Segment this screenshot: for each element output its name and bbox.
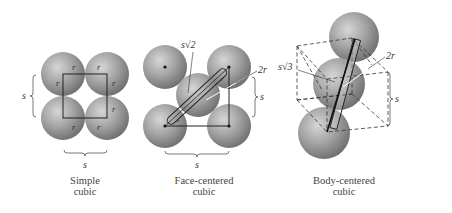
- radius-label: r: [97, 62, 101, 72]
- radius-label: r: [112, 78, 116, 88]
- side-label: s: [395, 93, 399, 104]
- radius-label: r: [112, 104, 116, 114]
- corner-dot: [163, 65, 166, 68]
- radius-label: r: [72, 62, 76, 72]
- caption-line1: Simple: [70, 175, 100, 186]
- radius-label: r: [72, 122, 76, 132]
- radius-label: r: [56, 78, 60, 88]
- center-sphere: [176, 73, 220, 117]
- caption-line1: Face-centered: [175, 175, 235, 186]
- sphere: [298, 107, 350, 159]
- body-centered-cubic-panel: s√3 2r s Body-centered cubic: [278, 12, 399, 197]
- side-bracket: [30, 75, 36, 117]
- radius-label: r: [177, 117, 180, 125]
- edge-label: s: [195, 159, 199, 170]
- diameter-label: 2r: [386, 50, 395, 61]
- edge-bracket: [165, 151, 229, 157]
- simple-cubic-panel: r r r r r r r s s Simple cubic: [22, 52, 129, 197]
- caption-line2: cubic: [74, 186, 97, 197]
- diagonal-label: s√3: [278, 61, 292, 72]
- diagonal-label: s√2: [181, 39, 195, 50]
- caption-line1: Body-centered: [313, 175, 376, 186]
- side-label: s: [22, 90, 26, 101]
- radius-label: r: [97, 122, 101, 132]
- caption-line2: cubic: [193, 186, 216, 197]
- edge-label: s: [83, 159, 87, 170]
- caption-line2: cubic: [333, 186, 356, 197]
- diameter-label: 2r: [258, 64, 267, 75]
- edge-bracket: [64, 150, 107, 156]
- face-centered-cubic-panel: s√2 2r r r s s Face-centered cubic: [143, 39, 267, 197]
- radius-label: r: [221, 75, 224, 83]
- side-label: s: [260, 91, 264, 102]
- side-bracket: [252, 77, 258, 117]
- unit-cell-diagram: r r r r r r r s s Simple cubic: [0, 0, 452, 213]
